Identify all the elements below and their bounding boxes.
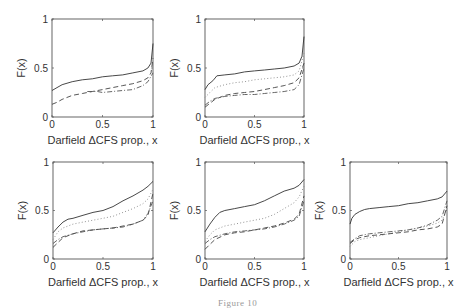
y-tick-label: 0 [195, 112, 201, 123]
plot-panel-1: 000.50.511Darfield ΔCFS prop., xF(x) [15, 14, 158, 147]
series-dotted [205, 186, 304, 241]
figure-caption: Figure 10 [218, 298, 257, 308]
y-tick-label: 0.5 [332, 205, 346, 216]
x-tick-label: 1 [301, 261, 307, 272]
series-dashed [53, 193, 153, 247]
y-tick-label: 0.5 [187, 63, 201, 74]
x-axis-label: Darfield ΔCFS prop., x [199, 276, 310, 288]
series-dash-dot [87, 73, 153, 93]
x-tick-label: 0.5 [96, 119, 110, 130]
x-axis-label: Darfield ΔCFS prop., x [47, 134, 158, 146]
y-tick-label: 0 [43, 254, 49, 265]
series-solid [205, 180, 304, 232]
axes-box [205, 162, 304, 259]
series-dashed [350, 206, 447, 244]
x-tick-label: 0 [50, 261, 56, 272]
series-dashed [205, 63, 304, 107]
series-solid [52, 44, 153, 91]
y-tick-label: 0 [340, 254, 346, 265]
plot-panel-5: 000.50.511Darfield ΔCFS prop., xF(x) [313, 157, 454, 289]
y-tick-label: 1 [195, 14, 201, 25]
y-tick-label: 1 [340, 157, 346, 168]
x-tick-label: 0.5 [248, 119, 262, 130]
y-axis-label: F(x) [15, 58, 27, 78]
y-tick-label: 0.5 [35, 205, 49, 216]
x-tick-label: 0.5 [248, 261, 262, 272]
series-solid [53, 181, 153, 232]
x-axis-label: Darfield ΔCFS prop., x [343, 276, 454, 288]
x-axis-label: Darfield ΔCFS prop., x [199, 134, 310, 146]
y-axis-label: F(x) [313, 201, 325, 221]
y-tick-label: 0 [42, 112, 48, 123]
x-tick-label: 1 [150, 119, 156, 130]
series-solid [205, 37, 304, 90]
axes-box [205, 19, 304, 117]
y-tick-label: 0 [195, 254, 201, 265]
y-axis-label: F(x) [16, 201, 28, 221]
x-tick-label: 1 [444, 261, 450, 272]
x-tick-label: 0 [347, 261, 353, 272]
series-dotted [53, 189, 153, 239]
plot-panel-4: 000.50.511Darfield ΔCFS prop., xF(x) [168, 157, 310, 289]
plot-panel-2: 000.50.511Darfield ΔCFS prop., xF(x) [168, 14, 310, 147]
plot-panel-3: 000.50.511Darfield ΔCFS prop., xF(x) [16, 157, 159, 289]
y-tick-label: 1 [195, 157, 201, 168]
y-tick-label: 0.5 [187, 205, 201, 216]
x-tick-label: 1 [301, 119, 307, 130]
x-tick-label: 0 [49, 119, 55, 130]
x-axis-label: Darfield ΔCFS prop., x [48, 276, 159, 288]
y-axis-label: F(x) [168, 201, 180, 221]
series-dash-dot [205, 68, 304, 105]
y-tick-label: 1 [42, 14, 48, 25]
x-tick-label: 0 [202, 119, 208, 130]
axes-box [350, 162, 447, 259]
axes-box [52, 19, 153, 117]
y-tick-label: 1 [43, 157, 49, 168]
series-solid [350, 191, 447, 224]
y-tick-label: 0.5 [34, 63, 48, 74]
x-tick-label: 0.5 [392, 261, 406, 272]
series-dashed [52, 58, 153, 104]
x-tick-label: 0 [202, 261, 208, 272]
x-tick-label: 0.5 [96, 261, 110, 272]
y-axis-label: F(x) [168, 58, 180, 78]
x-tick-label: 1 [150, 261, 156, 272]
